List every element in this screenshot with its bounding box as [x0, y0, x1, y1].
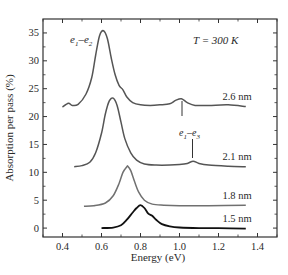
- x-tick-label: 0.6: [95, 241, 108, 252]
- y-tick-label: 35: [29, 27, 40, 38]
- x-tick-label: 0.4: [56, 241, 70, 252]
- y-tick-label: 30: [29, 55, 40, 66]
- x-tick-label: 1.4: [251, 241, 265, 252]
- x-axis-title: Energy (eV): [131, 251, 186, 264]
- e1-e3-annotation: e1–e3: [179, 127, 200, 141]
- curve-label: 2.6 nm: [222, 91, 251, 102]
- curve-label: 2.1 nm: [222, 151, 251, 162]
- curve-label: 1.5 nm: [222, 213, 251, 224]
- temperature-annotation: T = 300 K: [193, 34, 239, 46]
- e1-e2-annotation: e1–e2: [70, 33, 93, 48]
- temperature-label: T = 300 K: [193, 34, 239, 46]
- data-series: [63, 31, 246, 229]
- y-tick-label: 15: [29, 139, 40, 150]
- curve-label: 1.8 nm: [222, 190, 251, 201]
- curve-2-1-nm: [74, 98, 246, 167]
- y-tick-label: 5: [34, 195, 39, 206]
- absorption-chart: 0.40.60.81.01.21.405101520253035 2.6 nm2…: [0, 0, 288, 275]
- y-tick-label: 20: [29, 111, 40, 122]
- x-tick-label: 1.2: [212, 241, 225, 252]
- y-tick-label: 10: [29, 167, 40, 178]
- y-tick-label: 25: [29, 83, 40, 94]
- y-tick-label: 0: [34, 223, 39, 234]
- chart-labels: 2.6 nm2.1 nm1.8 nm1.5 nm: [222, 91, 251, 224]
- y-axis-title: Absorption per pass (%): [3, 74, 16, 182]
